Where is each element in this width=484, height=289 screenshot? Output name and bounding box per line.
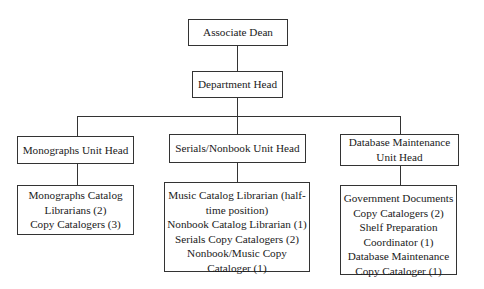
serials-staff-line: Nonbook/Music Copy	[187, 246, 287, 261]
connector-monographs-to-staff	[77, 164, 78, 185]
monographs-staff-line: Librarians (2)	[45, 203, 107, 218]
database-staff-line: Copy Catalogers (2)	[353, 206, 444, 221]
monographs-unit-head-label: Monographs Unit Head	[23, 143, 129, 158]
serials-staff-line: time position)	[206, 203, 268, 218]
database-staff-line: Copy Cataloger (1)	[355, 264, 441, 279]
database-staff-box: Government Documents Copy Catalogers (2)…	[340, 185, 457, 275]
database-staff-line: Database Maintenance	[348, 249, 450, 264]
connector-bus-to-monographs	[77, 116, 78, 136]
monographs-unit-head-box: Monographs Unit Head	[17, 136, 134, 164]
serials-staff-box: Music Catalog Librarian (half- time posi…	[164, 182, 310, 272]
connector-serials-to-staff	[237, 163, 238, 182]
monographs-staff-line: Copy Catalogers (3)	[30, 217, 121, 232]
database-unit-head-label-line1: Database Maintenance	[349, 135, 451, 150]
serials-staff-line: Serials Copy Catalogers (2)	[175, 232, 299, 247]
database-unit-head-label-line2: Unit Head	[376, 150, 422, 165]
connector-bus	[77, 116, 401, 117]
database-staff-line: Shelf Preparation	[360, 220, 438, 235]
serials-staff-line: Nonbook Catalog Librarian (1)	[167, 217, 307, 232]
serials-staff-line: Music Catalog Librarian (half-	[168, 188, 306, 203]
monographs-staff-box: Monographs Catalog Librarians (2) Copy C…	[17, 185, 134, 235]
database-unit-head-box: Database Maintenance Unit Head	[340, 134, 459, 166]
serials-unit-head-box: Serials/Nonbook Unit Head	[169, 134, 306, 163]
associate-dean-label: Associate Dean	[203, 25, 273, 40]
connector-bus-to-serials	[237, 116, 238, 134]
database-staff-line: Government Documents	[344, 191, 454, 206]
connector-head-to-bus	[237, 98, 238, 116]
monographs-staff-line: Monographs Catalog	[28, 188, 122, 203]
connector-database-to-staff	[400, 166, 401, 185]
serials-unit-head-label: Serials/Nonbook Unit Head	[175, 141, 299, 156]
associate-dean-box: Associate Dean	[188, 19, 288, 46]
department-head-box: Department Head	[192, 71, 283, 98]
connector-dean-to-head	[237, 46, 238, 71]
connector-bus-to-database	[400, 116, 401, 134]
database-staff-line: Coordinator (1)	[364, 235, 434, 250]
serials-staff-line: Cataloger (1)	[207, 261, 266, 276]
department-head-label: Department Head	[198, 77, 277, 92]
